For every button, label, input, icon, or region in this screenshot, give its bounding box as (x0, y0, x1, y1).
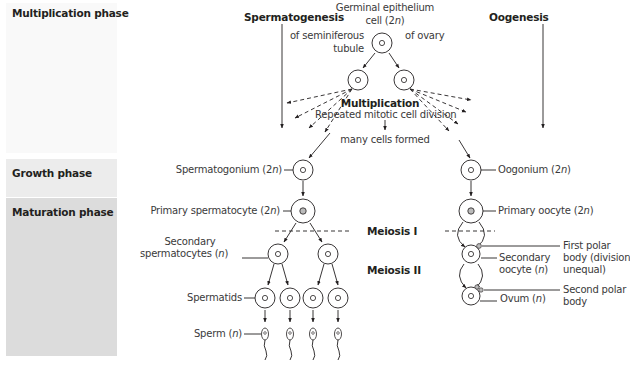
spermatids-label: Spermatids (170, 292, 242, 303)
spermatid-cell-3-nucleus (310, 295, 315, 300)
oocyte-meiosis1-left-arrow (457, 222, 465, 247)
primary-oocyte-cell-nucleus (468, 208, 474, 214)
secondary-spermatocyte-left-nucleus (275, 251, 280, 256)
sperm-nucleus-4 (337, 332, 340, 335)
primary-oocyte-label: Primary oocyte (2n) (498, 205, 593, 216)
ovum-label: Ovum (n) (500, 293, 546, 304)
oocyte-meiosis1-right-arrow (477, 222, 485, 247)
secondary-oocyte-cell-nucleus (468, 251, 473, 256)
to-spermatid-3-arrow (318, 264, 324, 285)
germinal-cell-nucleus (379, 40, 384, 45)
to-spermatid-4-arrow (332, 264, 338, 285)
ovary-label: of ovary (405, 30, 444, 41)
oogonium-cell-nucleus (468, 167, 473, 172)
sperm-nucleus-3 (312, 332, 315, 335)
spermatogenesis-header: Spermatogenesis (244, 11, 344, 23)
spermatid-cell-2-nucleus (287, 295, 292, 300)
germinal-to-left-arrow (363, 53, 375, 68)
first-polar-body-label-line2: body (division (563, 252, 630, 263)
seminiferous-label-line1: of seminiferous (286, 30, 364, 41)
second-polar-body-label-line1: Second polar (563, 284, 626, 295)
sperm-tail-3 (312, 340, 315, 360)
to-spermatid-2-arrow (282, 264, 288, 285)
oogonium-label: Oogonium (2n) (498, 164, 571, 175)
secondary-oocyte-label-line1: Secondary (499, 252, 550, 263)
germinal-label-line2: cell (2n) (335, 15, 435, 26)
oocyte-meiosis2-left-arrow (459, 264, 466, 288)
germinal-label-line1: Germinal epithelium (335, 2, 435, 13)
primary-spermatocyte-label: Primary spermatocyte (2n) (120, 205, 280, 216)
sperm-tail-1 (264, 340, 267, 360)
meiosis-two-label: Meiosis II (367, 264, 421, 276)
germinal-to-right-arrow (389, 53, 399, 68)
to-secondary-right-arrow (310, 223, 322, 242)
to-oogonium-arrow (459, 140, 470, 158)
first-polar-body-label-line1: First polar (563, 240, 611, 251)
sperm-nucleus-2 (289, 332, 292, 335)
seminiferous-label-line2: tubule (286, 43, 364, 54)
meiosis-one-label: Meiosis I (367, 225, 417, 237)
mitotic-cell-left-nucleus (355, 77, 360, 82)
to-spermatid-1-arrow (268, 264, 274, 285)
multiplication-result: many cells formed (330, 134, 440, 145)
first-polar-body-label-line3: unequal) (563, 264, 606, 275)
secondary-spermatocytes-label-line1: Secondary (150, 236, 230, 247)
sperm-nucleus-1 (264, 332, 267, 335)
sperm-tail-4 (337, 340, 340, 360)
sperm-label: Sperm (n) (180, 328, 242, 339)
spermatid-cell-1-nucleus (262, 295, 267, 300)
spermatogonium-label: Spermatogonium (2n) (150, 164, 282, 175)
mitotic-cell-right-nucleus (401, 77, 406, 82)
secondary-spermatocyte-right-nucleus (325, 251, 330, 256)
spermatid-cell-4-nucleus (335, 295, 340, 300)
secondary-spermatocytes-label-line2: spermatocytes (n) (140, 248, 228, 259)
spermatogonium-cell-nucleus (300, 167, 305, 172)
to-secondary-left-arrow (284, 223, 296, 242)
sperm-tail-2 (289, 340, 292, 360)
multiplication-subtitle: Repeated mitotic cell division (315, 109, 455, 120)
second-polar-body-a (475, 285, 479, 289)
second-polar-body-label-line2: body (563, 296, 587, 307)
oogenesis-header: Oogenesis (489, 11, 549, 23)
secondary-oocyte-label-line2: oocyte (n) (499, 264, 548, 275)
to-spermatogonium-arrow (309, 133, 330, 158)
oocyte-meiosis2-right-arrow (476, 264, 483, 288)
ovum-cell-nucleus (468, 293, 473, 298)
first-polar-body (477, 244, 482, 249)
second-polar-body-b (479, 288, 483, 292)
primary-spermatocyte-cell-nucleus (300, 208, 306, 214)
multiplication-title: Multiplication (330, 97, 430, 109)
